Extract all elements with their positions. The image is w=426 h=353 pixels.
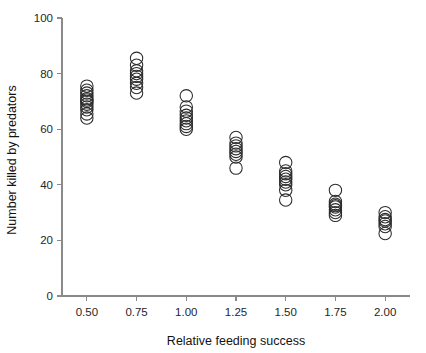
y-axis: 020406080100	[34, 12, 62, 302]
x-tick-label: 1.50	[275, 306, 297, 318]
data-point-marker	[180, 123, 192, 135]
data-point-marker	[230, 145, 242, 157]
x-axis-title: Relative feeding success	[167, 334, 305, 348]
data-point-marker	[180, 120, 192, 132]
x-tick-label: 0.50	[76, 306, 98, 318]
data-point-marker	[230, 162, 242, 174]
data-point-marker	[130, 52, 142, 64]
x-tick-label: 1.25	[225, 306, 247, 318]
data-point-marker	[130, 70, 142, 82]
data-point-marker	[280, 173, 292, 185]
data-point-marker	[81, 101, 93, 113]
y-tick-label: 40	[40, 179, 53, 191]
y-tick-label: 100	[34, 12, 53, 24]
y-tick-label: 80	[40, 68, 53, 80]
data-point-marker	[379, 220, 391, 232]
scatter-plot-figure: 020406080100 0.500.751.001.251.501.752.0…	[0, 0, 426, 353]
y-axis-title: Number killed by predators	[5, 85, 19, 234]
data-point-marker	[280, 194, 292, 206]
data-point-marker	[230, 151, 242, 163]
x-tick-label: 1.75	[324, 306, 346, 318]
data-point-marker	[329, 184, 341, 196]
data-point-marker	[230, 148, 242, 160]
data-point-marker	[180, 117, 192, 129]
data-point-marker	[130, 67, 142, 79]
data-point-marker	[329, 206, 341, 218]
data-markers	[81, 52, 392, 240]
y-tick-label: 0	[47, 290, 53, 302]
data-point-marker	[180, 90, 192, 102]
x-tick-label: 2.00	[374, 306, 396, 318]
data-point-marker	[130, 87, 142, 99]
x-tick-label: 1.00	[175, 306, 197, 318]
x-axis: 0.500.751.001.251.501.752.00	[62, 296, 410, 318]
data-point-marker	[280, 179, 292, 191]
x-tick-label: 0.75	[125, 306, 147, 318]
data-point-marker	[280, 184, 292, 196]
y-tick-label: 60	[40, 123, 53, 135]
data-point-marker	[329, 209, 341, 221]
plot-canvas: 020406080100 0.500.751.001.251.501.752.0…	[0, 0, 426, 353]
y-tick-label: 20	[40, 234, 53, 246]
data-point-marker	[379, 227, 391, 239]
